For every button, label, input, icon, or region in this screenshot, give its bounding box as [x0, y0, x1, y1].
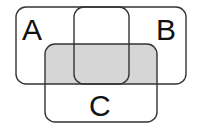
set-c-label: C — [89, 89, 111, 122]
set-a-label: A — [22, 13, 42, 46]
venn-diagram: A B C — [0, 0, 201, 133]
set-b-label: B — [156, 13, 176, 46]
